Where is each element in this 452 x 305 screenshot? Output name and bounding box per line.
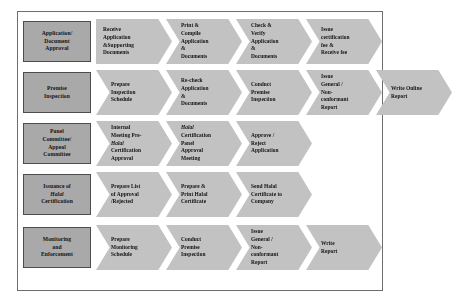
process-step-chevron[interactable]: InternalMeeting Pre-HalalCertificationAp… xyxy=(96,121,172,166)
process-step-label-line: & xyxy=(181,93,228,101)
process-step-label: Prepare Listof Approval/Rejected xyxy=(96,183,172,206)
category-label-line: Monitoring xyxy=(41,236,73,244)
process-row: Application/DocumentApprovalReceiveAppli… xyxy=(18,18,382,64)
category-label: MonitoringandEnforcement xyxy=(41,236,73,259)
process-step-label-line: Prepare xyxy=(111,81,158,89)
process-step-label: Issuecertificationfee &Receive fee xyxy=(306,26,382,57)
process-step-label: PrepareMonitoringSchedule xyxy=(96,236,172,259)
process-step-chevron[interactable]: Send HalalCertificate toCompany xyxy=(236,172,312,217)
process-step-label-line: Internal xyxy=(111,124,158,132)
process-row: MonitoringandEnforcementPrepareMonitorin… xyxy=(18,224,382,270)
process-step-label: Print &CompileApplication&Documents xyxy=(166,22,242,61)
process-step-label-line: Premise xyxy=(251,89,298,97)
process-step-label: ReceiveApplication&SupportingDocuments xyxy=(96,26,172,57)
process-step-label-line: Conduct xyxy=(251,81,298,89)
process-step-label: Send HalalCertificate toCompany xyxy=(236,183,312,206)
process-step-label-line: Inspection xyxy=(181,251,228,259)
process-step-label-line: Send Halal xyxy=(251,183,298,191)
process-step-chevron[interactable]: Approve /RejectApplication xyxy=(236,121,312,166)
category-label-line: Panel xyxy=(43,128,72,136)
process-step-chevron[interactable]: Check &VerifyApplication&Documents xyxy=(236,19,312,64)
process-diagram-frame: Application/DocumentApprovalReceiveAppli… xyxy=(17,11,383,291)
process-step-label-line: Application xyxy=(181,38,228,46)
process-step-label-line: Approval xyxy=(111,155,158,163)
process-step-label: HalalCertificationPanelApprovalMeeting xyxy=(166,124,242,163)
category-box[interactable]: PanelCommittee/AppealCommittee xyxy=(23,123,91,164)
process-step-chevron[interactable]: Issuecertificationfee &Receive fee xyxy=(306,19,382,64)
process-step-chevron[interactable]: ConductPremiseInspection xyxy=(236,70,312,115)
process-step-label-line: Schedule xyxy=(111,251,158,259)
category-box[interactable]: MonitoringandEnforcement xyxy=(23,227,91,268)
process-step-label-line: Issue xyxy=(321,73,368,81)
process-step-chevron[interactable]: IssueGeneral /Non-conformantReport xyxy=(236,225,312,270)
process-step-chevron[interactable]: HalalCertificationPanelApprovalMeeting xyxy=(166,121,242,166)
category-label-line: Enforcement xyxy=(41,251,73,259)
process-step-label-line: Certificate xyxy=(181,198,228,206)
process-step-label-line: /Rejected xyxy=(111,198,158,206)
process-step-chevron[interactable]: Prepare Listof Approval/Rejected xyxy=(96,172,172,217)
category-box[interactable]: Issuance ofHalalCertification xyxy=(23,174,91,215)
category-label-line: Application/ xyxy=(42,30,73,38)
process-step-label-line: & xyxy=(181,45,228,53)
process-step-label-line: Issue xyxy=(251,228,298,236)
process-step-label-line: Write Online xyxy=(391,85,438,93)
process-step-chevron[interactable]: IssueGeneral /Non-conformantReport xyxy=(306,70,382,115)
process-rows: Application/DocumentApprovalReceiveAppli… xyxy=(18,12,382,290)
process-step-label-line: Verify xyxy=(251,30,298,38)
process-step-label: ConductPremiseInspection xyxy=(166,236,242,259)
process-step-label-line: Application xyxy=(103,34,158,42)
process-step-label-line: Meeting Pre- xyxy=(111,132,158,140)
process-step-label-line: Approve / xyxy=(251,132,298,140)
category-label-line: Certification xyxy=(41,198,73,206)
process-row: PanelCommittee/AppealCommitteeInternalMe… xyxy=(18,120,382,166)
process-step-chevron[interactable]: PrepareMonitoringSchedule xyxy=(96,225,172,270)
process-step-label-line: Halal xyxy=(181,124,228,132)
process-step-label: Write OnlineReport xyxy=(376,85,452,101)
process-step-chevron[interactable]: PrepareInspectionSchedule xyxy=(96,70,172,115)
process-step-label-line: Prepare xyxy=(111,236,158,244)
category-label: PanelCommittee/AppealCommittee xyxy=(43,128,72,158)
process-step-label-line: &Supporting xyxy=(103,42,158,50)
process-step-label-line: Report xyxy=(391,93,438,101)
process-step-label-line: conformant xyxy=(251,251,298,259)
process-step-chevron[interactable]: WriteReport xyxy=(306,225,382,270)
category-label-line: Committee/ xyxy=(43,136,72,144)
process-step-label-line: Report xyxy=(321,248,368,256)
category-label-line: Appeal xyxy=(43,144,72,152)
category-box[interactable]: PremiseInspection xyxy=(23,72,91,113)
step-chevron-group: PrepareMonitoringScheduleConductPremiseI… xyxy=(96,224,382,270)
process-step-label-line: Documents xyxy=(251,53,298,61)
process-step-chevron[interactable]: Prepare &Print HalalCertificate xyxy=(166,172,242,217)
process-step-label-line: Non- xyxy=(251,244,298,252)
category-label: PremiseInspection xyxy=(44,85,70,100)
process-step-label-line: Documents xyxy=(103,49,158,57)
process-step-label-line: certification xyxy=(321,34,368,42)
process-step-label-line: Halal xyxy=(111,140,158,148)
process-step-label: IssueGeneral /Non-conformantReport xyxy=(236,228,312,267)
process-step-chevron[interactable]: Re-checkApplication&Documents xyxy=(166,70,242,115)
process-step-label-line: Certification xyxy=(111,147,158,155)
process-step-label-line: Monitoring xyxy=(111,244,158,252)
process-step-label-line: Write xyxy=(321,240,368,248)
process-step-label-line: Receive xyxy=(103,26,158,34)
process-step-label-line: Re-check xyxy=(181,77,228,85)
process-step-label-line: Application xyxy=(181,85,228,93)
step-chevron-group: Prepare Listof Approval/RejectedPrepare … xyxy=(96,171,382,217)
process-step-label-line: Panel xyxy=(181,140,228,148)
process-step-chevron[interactable]: Write OnlineReport xyxy=(376,70,452,115)
category-label-line: Halal xyxy=(41,191,73,199)
process-step-chevron[interactable]: ReceiveApplication&SupportingDocuments xyxy=(96,19,172,64)
process-step-label-line: Report xyxy=(251,259,298,267)
process-step-chevron[interactable]: Print &CompileApplication&Documents xyxy=(166,19,242,64)
process-step-chevron[interactable]: ConductPremiseInspection xyxy=(166,225,242,270)
process-step-label-line: Company xyxy=(251,198,298,206)
process-step-label-line: Report xyxy=(321,104,368,112)
category-label: Issuance ofHalalCertification xyxy=(41,183,73,206)
category-label-line: Document xyxy=(42,38,73,46)
process-step-label-line: Print & xyxy=(181,22,228,30)
process-step-label-line: of Approval xyxy=(111,191,158,199)
process-step-label-line: Certificate to xyxy=(251,191,298,199)
category-box[interactable]: Application/DocumentApproval xyxy=(23,21,91,62)
process-step-label-line: Approval xyxy=(181,147,228,155)
process-step-label-line: General / xyxy=(321,81,368,89)
